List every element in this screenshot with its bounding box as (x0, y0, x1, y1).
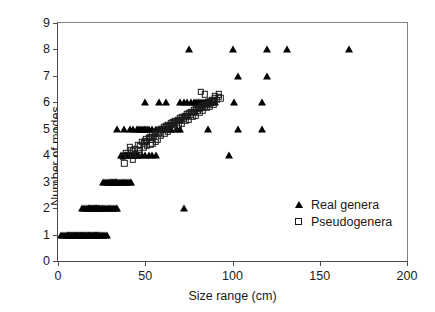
legend-swatch (292, 201, 305, 208)
y-axis-tick-label: 8 (43, 42, 50, 56)
y-axis-tick-label: 1 (43, 228, 50, 242)
data-point (103, 231, 111, 238)
x-axis-tick-label: 0 (55, 269, 62, 283)
filled-triangle-marker-icon (345, 46, 353, 53)
x-axis-tick-label: 150 (309, 269, 330, 283)
y-axis-tick-label: 9 (43, 16, 50, 30)
data-point (162, 99, 170, 106)
legend-label: Real genera (311, 198, 379, 212)
filled-triangle-marker-icon (258, 99, 266, 106)
data-point (127, 178, 135, 185)
data-point (345, 46, 353, 53)
y-axis-tick-label: 5 (43, 122, 50, 136)
filled-triangle-marker-icon (185, 46, 193, 53)
legend-swatch (292, 218, 305, 224)
data-point (152, 152, 160, 159)
data-point (144, 143, 150, 149)
y-axis-tick-label: 7 (43, 69, 50, 83)
filled-triangle-marker-icon (295, 201, 303, 208)
data-point (234, 125, 242, 132)
y-axis-tick (53, 49, 58, 50)
legend-item: Pseudogenera (292, 213, 392, 230)
y-axis-tick (53, 182, 58, 183)
data-point (201, 91, 207, 97)
x-axis-tick-label: 50 (138, 269, 152, 283)
x-axis-tick (233, 261, 234, 266)
data-point (141, 99, 149, 106)
filled-triangle-marker-icon (234, 125, 242, 132)
y-axis-tick-label: 3 (43, 175, 50, 189)
legend-label: Pseudogenera (311, 215, 392, 229)
x-axis-tick-label: 200 (397, 269, 418, 283)
y-axis-tick (53, 235, 58, 236)
x-axis-title: Size range (cm) (57, 289, 408, 303)
data-point (258, 125, 266, 132)
filled-triangle-marker-icon (103, 231, 111, 238)
y-axis-tick (53, 76, 58, 77)
filled-triangle-marker-icon (263, 72, 271, 79)
filled-triangle-marker-icon (283, 46, 291, 53)
scatter-plot-figure: Number of modes 0123456789050100150200 S… (0, 0, 435, 312)
y-axis-tick-label: 0 (43, 254, 50, 268)
data-point (230, 99, 238, 106)
data-point (234, 72, 242, 79)
x-axis-tick (320, 261, 321, 266)
data-point (204, 125, 212, 132)
open-square-marker-icon (210, 102, 216, 108)
y-axis-tick (53, 208, 58, 209)
filled-triangle-marker-icon (229, 46, 237, 53)
data-point (180, 205, 188, 212)
open-square-marker-icon (201, 91, 207, 97)
x-axis-tick-label: 100 (222, 269, 243, 283)
data-point (113, 205, 121, 212)
filled-triangle-marker-icon (162, 99, 170, 106)
filled-triangle-marker-icon (180, 205, 188, 212)
filled-triangle-marker-icon (127, 178, 135, 185)
data-point (121, 160, 127, 166)
y-axis-tick (53, 23, 58, 24)
open-square-marker-icon (144, 143, 150, 149)
open-square-marker-icon (215, 91, 221, 97)
open-square-marker-icon (295, 218, 301, 224)
filled-triangle-marker-icon (141, 99, 149, 106)
open-square-marker-icon (121, 160, 127, 166)
data-point (210, 102, 216, 108)
data-point (263, 72, 271, 79)
filled-triangle-marker-icon (234, 72, 242, 79)
filled-triangle-marker-icon (113, 205, 121, 212)
filled-triangle-marker-icon (152, 152, 160, 159)
data-point (263, 46, 271, 53)
data-point (185, 46, 193, 53)
x-axis-tick (145, 261, 146, 266)
data-point (119, 153, 125, 159)
y-axis-tick-label: 6 (43, 95, 50, 109)
y-axis-tick (53, 129, 58, 130)
x-axis-tick (58, 261, 59, 266)
y-axis-tick-label: 2 (43, 201, 50, 215)
filled-triangle-marker-icon (230, 99, 238, 106)
filled-triangle-marker-icon (204, 125, 212, 132)
y-axis-tick (53, 102, 58, 103)
filled-triangle-marker-icon (225, 152, 233, 159)
legend-item: Real genera (292, 196, 392, 213)
legend: Real generaPseudogenera (292, 196, 392, 230)
x-axis-tick (407, 261, 408, 266)
y-axis-tick-label: 4 (43, 148, 50, 162)
data-point (225, 152, 233, 159)
data-point (283, 46, 291, 53)
data-point (258, 99, 266, 106)
filled-triangle-marker-icon (263, 46, 271, 53)
y-axis-tick (53, 155, 58, 156)
data-point (215, 91, 221, 97)
filled-triangle-marker-icon (258, 125, 266, 132)
data-point (229, 46, 237, 53)
open-square-marker-icon (119, 153, 125, 159)
